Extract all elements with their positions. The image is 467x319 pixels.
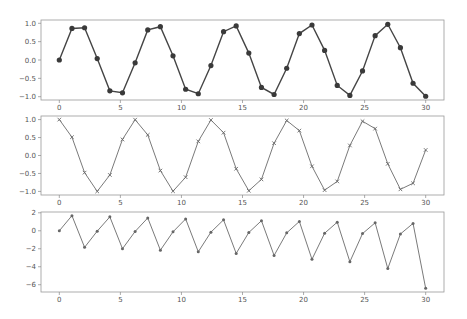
x-tick-label: 5 bbox=[118, 199, 122, 207]
x-tick-label: 20 bbox=[299, 296, 308, 304]
star-marker bbox=[412, 222, 415, 225]
circle-marker bbox=[259, 85, 264, 90]
x-tick-label: 20 bbox=[299, 104, 308, 112]
x-tick-label: 25 bbox=[360, 296, 369, 304]
star-marker bbox=[386, 267, 389, 270]
circle-marker bbox=[423, 94, 428, 99]
circle-marker bbox=[360, 68, 365, 73]
subplots-canvas: 0510152025301.00.50.0−0.5−1.0 0510152025… bbox=[0, 0, 467, 319]
y-tick-label: −6 bbox=[26, 281, 37, 289]
x-tick-label: 15 bbox=[238, 199, 247, 207]
circle-marker bbox=[208, 63, 213, 68]
x-tick-label: 0 bbox=[57, 296, 61, 304]
x-tick-label: 15 bbox=[238, 296, 247, 304]
x-tick-label: 5 bbox=[118, 104, 122, 112]
star-marker bbox=[209, 231, 212, 234]
star-marker bbox=[58, 229, 61, 232]
circle-marker bbox=[373, 33, 378, 38]
x-tick-label: 15 bbox=[238, 104, 247, 112]
circle-marker bbox=[309, 22, 314, 27]
star-marker bbox=[83, 246, 86, 249]
circle-marker bbox=[158, 24, 163, 29]
star-marker bbox=[96, 230, 99, 233]
star-marker bbox=[159, 249, 162, 252]
subplot-sin: 0510152025301.00.50.0−0.5−1.0 bbox=[19, 20, 444, 112]
x-tick-label: 0 bbox=[57, 104, 61, 112]
x-tick-label: 5 bbox=[118, 296, 122, 304]
circle-marker bbox=[234, 23, 239, 28]
y-tick-label: −4 bbox=[26, 263, 37, 271]
circle-marker bbox=[271, 92, 276, 97]
star-marker bbox=[323, 232, 326, 235]
star-marker bbox=[348, 260, 351, 263]
star-marker bbox=[424, 287, 427, 290]
star-marker bbox=[336, 221, 339, 224]
x-tick-label: 25 bbox=[360, 104, 369, 112]
star-marker bbox=[222, 218, 225, 221]
y-tick-label: 0 bbox=[32, 227, 36, 235]
y-tick-label: 0.0 bbox=[25, 57, 36, 65]
star-marker bbox=[399, 232, 402, 235]
star-marker bbox=[273, 254, 276, 257]
x-tick-label: 20 bbox=[299, 199, 308, 207]
y-tick-label: −0.5 bbox=[19, 170, 36, 178]
circle-marker bbox=[107, 88, 112, 93]
subplot-tan: 05101520253020−2−4−6 bbox=[26, 209, 444, 304]
circle-marker bbox=[221, 29, 226, 34]
circle-marker bbox=[385, 22, 390, 27]
circle-marker bbox=[133, 60, 138, 65]
y-tick-label: 0.5 bbox=[25, 38, 36, 46]
axes-frame bbox=[41, 116, 444, 195]
y-tick-label: 1.0 bbox=[25, 116, 36, 124]
star-marker bbox=[121, 247, 124, 250]
star-marker bbox=[260, 219, 263, 222]
star-marker bbox=[172, 230, 175, 233]
x-tick-label: 0 bbox=[57, 199, 61, 207]
circle-marker bbox=[196, 91, 201, 96]
y-tick-label: 0.0 bbox=[25, 152, 36, 160]
star-marker bbox=[134, 230, 137, 233]
star-marker bbox=[108, 215, 111, 218]
circle-marker bbox=[95, 56, 100, 61]
circle-marker bbox=[170, 53, 175, 58]
circle-marker bbox=[82, 25, 87, 30]
circle-marker bbox=[57, 57, 62, 62]
circle-marker bbox=[69, 26, 74, 31]
circle-marker bbox=[284, 66, 289, 71]
circle-marker bbox=[347, 93, 352, 98]
star-marker bbox=[374, 221, 377, 224]
y-tick-label: 1.0 bbox=[25, 20, 36, 28]
y-tick-label: −1.0 bbox=[19, 93, 36, 101]
circle-marker bbox=[410, 81, 415, 86]
star-marker bbox=[310, 258, 313, 261]
star-marker bbox=[70, 214, 73, 217]
circle-marker bbox=[297, 31, 302, 36]
x-tick-label: 10 bbox=[177, 104, 186, 112]
x-tick-label: 30 bbox=[421, 199, 430, 207]
subplot-cos: 0510152025301.00.50.0−0.5−1.0 bbox=[19, 116, 444, 207]
star-marker bbox=[235, 252, 238, 255]
circle-marker bbox=[335, 83, 340, 88]
circle-marker bbox=[322, 48, 327, 53]
circle-marker bbox=[398, 45, 403, 50]
circle-marker bbox=[145, 27, 150, 32]
star-marker bbox=[361, 232, 364, 235]
figure: 0510152025301.00.50.0−0.5−1.0 0510152025… bbox=[0, 0, 467, 319]
axes-frame bbox=[41, 20, 444, 100]
y-tick-label: −2 bbox=[26, 245, 36, 253]
x-tick-label: 30 bbox=[421, 104, 430, 112]
x-tick-label: 10 bbox=[177, 296, 186, 304]
circle-marker bbox=[246, 50, 251, 55]
circle-marker bbox=[120, 90, 125, 95]
x-tick-label: 10 bbox=[177, 199, 186, 207]
y-tick-label: 0.5 bbox=[25, 134, 36, 142]
star-marker bbox=[285, 231, 288, 234]
star-marker bbox=[184, 217, 187, 220]
x-tick-label: 25 bbox=[360, 199, 369, 207]
star-marker bbox=[146, 216, 149, 219]
y-tick-label: −0.5 bbox=[19, 75, 36, 83]
y-tick-label: 2 bbox=[32, 209, 36, 217]
y-tick-label: −1.0 bbox=[19, 188, 36, 196]
star-marker bbox=[247, 231, 250, 234]
star-marker bbox=[197, 250, 200, 253]
